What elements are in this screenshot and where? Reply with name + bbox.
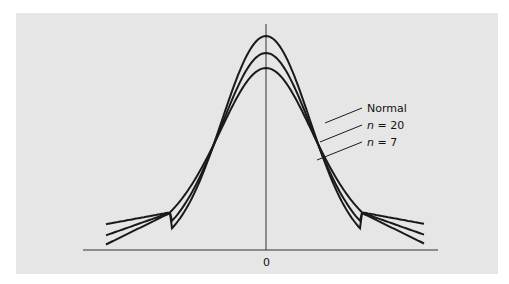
callouts-group — [317, 108, 362, 160]
label-n20-value: = 20 — [374, 119, 404, 132]
callout-line-normal — [325, 108, 362, 123]
label-n20-n: n — [367, 119, 374, 132]
label-n7-n: n — [367, 136, 374, 149]
label-n7-value: = 7 — [374, 136, 397, 149]
callout-line-n20 — [320, 125, 362, 142]
x-tick-zero: 0 — [263, 256, 270, 269]
label-n7: n = 7 — [367, 136, 397, 149]
distribution-chart: Normal n = 20 n = 7 0 — [0, 0, 509, 284]
label-normal: Normal — [367, 102, 407, 115]
callout-line-n7 — [317, 142, 362, 160]
label-n20: n = 20 — [367, 119, 404, 132]
